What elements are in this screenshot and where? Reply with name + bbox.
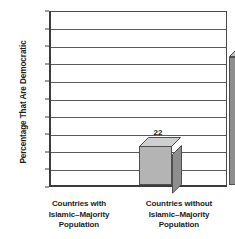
x-category-label: Countries withIslamic–MajorityPopulation (31, 199, 127, 231)
gridline (51, 117, 226, 118)
x-category-label: Countries withoutIslamic–MajorityPopulat… (125, 199, 233, 231)
gridline (51, 64, 226, 65)
x-category-label-line: Population (31, 220, 127, 231)
bar-chart: Percentage That Are Democratic 100908070… (0, 0, 235, 239)
bar-side-face (172, 145, 182, 194)
bar-front-face (139, 146, 172, 185)
gridline (51, 29, 226, 30)
bar-front-face (229, 57, 235, 185)
gridline (51, 100, 226, 101)
bar (229, 48, 235, 185)
x-category-label-line: Islamic–Majority (125, 210, 233, 221)
bar (139, 137, 181, 185)
x-category-label-line: Population (125, 220, 233, 231)
bar-value-label: 73 (228, 39, 235, 48)
plot-area (49, 11, 227, 187)
x-category-label-line: Countries without (125, 199, 233, 210)
x-category-label-line: Countries with (31, 199, 127, 210)
y-axis-title: Percentage That Are Democratic (17, 17, 31, 187)
bar-value-label: 22 (138, 128, 178, 137)
bar-top-outline (229, 47, 235, 57)
gridline (51, 82, 226, 83)
x-category-label-line: Islamic–Majority (31, 210, 127, 221)
gridline (51, 47, 226, 48)
